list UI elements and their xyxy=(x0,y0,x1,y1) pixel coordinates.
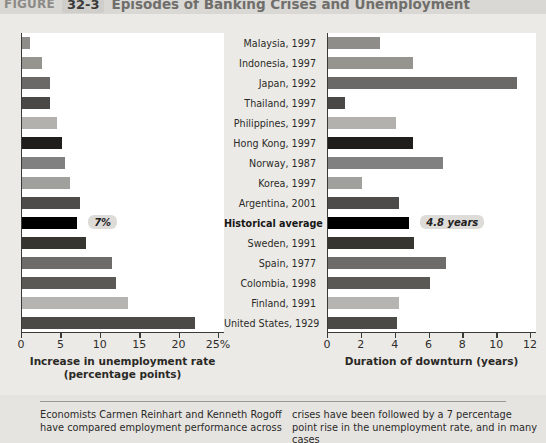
bar xyxy=(328,77,517,89)
category-label: Indonesia, 1997 xyxy=(224,58,316,69)
bar-row xyxy=(22,217,224,229)
axis-tick-label: 12 xyxy=(523,338,537,351)
bar xyxy=(22,37,30,49)
axis-tick-label: 0 xyxy=(18,338,25,351)
axis-tick-label: 4 xyxy=(391,338,398,351)
bar-row xyxy=(328,137,536,149)
category-label: Japan, 1992 xyxy=(224,78,316,89)
bar xyxy=(328,117,396,129)
bar-row xyxy=(22,197,224,209)
bar-row xyxy=(328,37,536,49)
x-axis-title-right: Duration of downturn (years) xyxy=(327,355,536,368)
figure-body: 0510152025% Increase in unemployment rat… xyxy=(0,14,546,395)
bar-row xyxy=(22,237,224,249)
figure-title: Episodes of Banking Crises and Unemploym… xyxy=(111,0,469,12)
caption-right-text: crises have been followed by a 7 percent… xyxy=(292,409,538,443)
bar xyxy=(328,137,413,149)
figure-number: 32-3 xyxy=(62,0,105,13)
bar-row xyxy=(22,37,224,49)
category-label: Finland, 1991 xyxy=(224,298,316,309)
bar xyxy=(22,237,86,249)
category-label: Colombia, 1998 xyxy=(224,278,316,289)
category-label: Historical average xyxy=(224,218,316,229)
bar-series-left xyxy=(22,33,224,332)
bar-row xyxy=(22,57,224,69)
bar xyxy=(22,57,42,69)
category-label: Argentina, 2001 xyxy=(224,198,316,209)
caption-column-left: Economists Carmen Reinhart and Kenneth R… xyxy=(40,409,286,434)
bar xyxy=(328,217,409,229)
bar-row xyxy=(22,97,224,109)
bar-row xyxy=(22,177,224,189)
category-label: United States, 1929 xyxy=(224,318,316,329)
bar-row xyxy=(328,277,536,289)
axis-tick-label: 6 xyxy=(425,338,432,351)
plot-area-right xyxy=(327,33,536,333)
bar xyxy=(22,97,50,109)
bar xyxy=(328,297,399,309)
category-label: Thailand, 1997 xyxy=(224,98,316,109)
callout-badge: 4.8 years xyxy=(420,215,484,229)
bar-row xyxy=(328,97,536,109)
caption-divider xyxy=(40,401,506,402)
bar-row xyxy=(22,157,224,169)
plot-area-left xyxy=(21,33,224,333)
callout-badge: 7% xyxy=(88,215,117,229)
bar-row xyxy=(22,77,224,89)
axis-tick-label: 5 xyxy=(57,338,64,351)
bar-row xyxy=(328,57,536,69)
axis-tick-label: 15 xyxy=(132,338,146,351)
bar xyxy=(22,217,77,229)
bar xyxy=(22,197,80,209)
bar xyxy=(328,97,345,109)
caption-area: Economists Carmen Reinhart and Kenneth R… xyxy=(0,395,546,443)
category-label: Spain, 1977 xyxy=(224,258,316,269)
bar xyxy=(22,77,50,89)
bar-row xyxy=(328,257,536,269)
bar xyxy=(328,237,414,249)
chart-panel-left: 0510152025% Increase in unemployment rat… xyxy=(10,33,224,351)
axis-tick-label: 0 xyxy=(324,338,331,351)
bar xyxy=(328,257,446,269)
bar-row xyxy=(328,77,536,89)
category-label: Sweden, 1991 xyxy=(224,238,316,249)
category-label: Korea, 1997 xyxy=(224,178,316,189)
bar xyxy=(328,37,380,49)
bar-row xyxy=(328,157,536,169)
figure-label: FIGURE xyxy=(4,0,55,11)
axis-tick-label: 8 xyxy=(459,338,466,351)
bar-row xyxy=(22,317,224,329)
axis-tick-label: 20 xyxy=(172,338,186,351)
axis-tick-label: 25% xyxy=(206,338,230,351)
bar xyxy=(328,57,413,69)
x-axis-tick-labels-right: 024681012 xyxy=(327,338,536,354)
bar-row xyxy=(328,197,536,209)
figure-header-bar: FIGURE 32-3 Episodes of Banking Crises a… xyxy=(0,0,546,14)
bar-series-right xyxy=(328,33,536,332)
caption-left-text: Economists Carmen Reinhart and Kenneth R… xyxy=(40,409,286,434)
bar-row xyxy=(22,277,224,289)
bar xyxy=(22,317,195,329)
bar xyxy=(328,277,430,289)
bar-row xyxy=(22,117,224,129)
bar xyxy=(22,277,116,289)
bar xyxy=(22,257,112,269)
bar-row xyxy=(328,177,536,189)
x-axis-tick-labels-left: 0510152025% xyxy=(21,338,224,354)
x-axis-title-right-line1: Duration of downturn (years) xyxy=(327,355,536,368)
bar xyxy=(22,297,128,309)
bar-row xyxy=(22,257,224,269)
bar xyxy=(328,177,362,189)
axis-tick-label: 10 xyxy=(489,338,503,351)
bar-row xyxy=(328,117,536,129)
bar xyxy=(328,197,399,209)
bar-row xyxy=(22,297,224,309)
category-label: Malaysia, 1997 xyxy=(224,38,316,49)
bar xyxy=(22,117,57,129)
bar-row xyxy=(328,297,536,309)
x-axis-title-left-line2: (percentage points) xyxy=(21,368,224,381)
bar xyxy=(22,157,65,169)
x-axis-title-left-line1: Increase in unemployment rate xyxy=(21,355,224,368)
axis-tick-label: 2 xyxy=(357,338,364,351)
bar xyxy=(22,137,62,149)
